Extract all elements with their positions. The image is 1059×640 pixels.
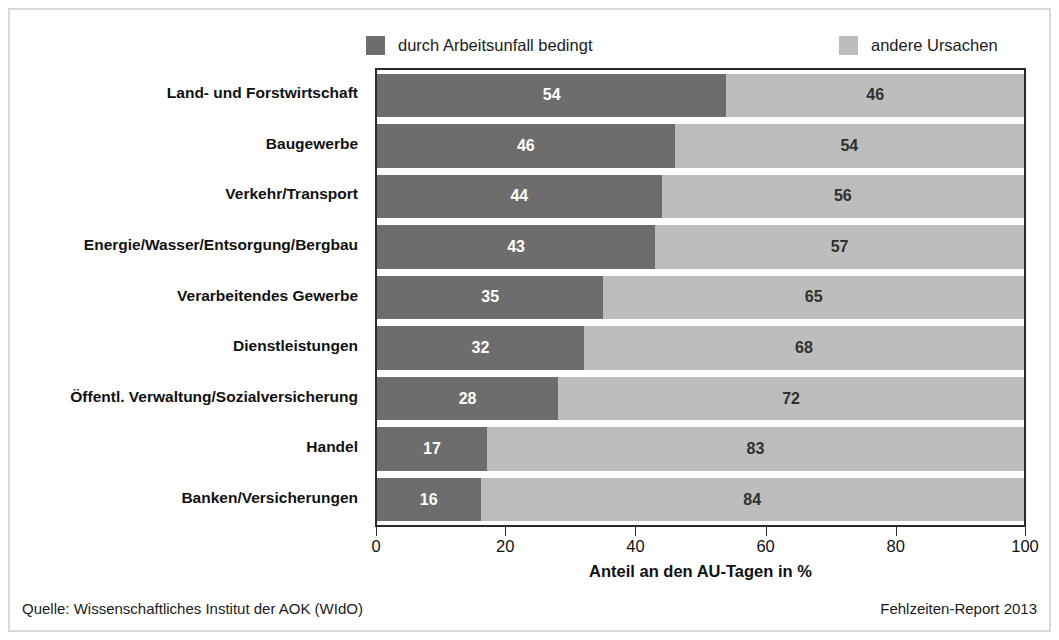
- axis-tick-label: 40: [626, 538, 644, 555]
- bar-value-label: 17: [423, 441, 441, 457]
- category-label: Energie/Wasser/Entsorgung/Bergbau: [84, 237, 358, 253]
- bar-row: 1684: [377, 478, 1024, 522]
- bar-value-label: 54: [840, 138, 858, 154]
- bar-segment-arbeitsunfall[interactable]: 54: [377, 74, 726, 118]
- bar-segment-andere-ursachen[interactable]: 57: [655, 225, 1024, 269]
- bar-value-label: 32: [472, 340, 490, 356]
- bar-value-label: 44: [510, 188, 528, 204]
- value-axis: Anteil an den AU-Tagen in % 020406080100: [375, 527, 1026, 587]
- bar-row: 5446: [377, 74, 1024, 118]
- bar-row: 4654: [377, 124, 1024, 168]
- bar-value-label: 54: [543, 87, 561, 103]
- report-note: Fehlzeiten-Report 2013: [880, 601, 1037, 616]
- legend-swatch-icon-series-1: [839, 36, 858, 55]
- axis-tick-label: 60: [756, 538, 774, 555]
- bar-value-label: 68: [795, 340, 813, 356]
- category-label: Banken/Versicherungen: [181, 490, 358, 506]
- axis-tick: [1025, 527, 1026, 536]
- bar-segment-andere-ursachen[interactable]: 84: [481, 478, 1024, 522]
- axis-tick: [376, 527, 377, 536]
- bar-segment-andere-ursachen[interactable]: 72: [558, 377, 1024, 421]
- bar-value-label: 72: [782, 391, 800, 407]
- axis-tick: [635, 527, 636, 536]
- category-label: Handel: [306, 439, 358, 455]
- bar-segment-arbeitsunfall[interactable]: 16: [377, 478, 481, 522]
- bar-value-label: 83: [747, 441, 765, 457]
- bar-segment-andere-ursachen[interactable]: 54: [675, 124, 1024, 168]
- category-label: Öffentl. Verwaltung/Sozialversicherung: [70, 389, 358, 405]
- bar-value-label: 46: [866, 87, 884, 103]
- bar-segment-arbeitsunfall[interactable]: 43: [377, 225, 655, 269]
- bar-row: 4456: [377, 175, 1024, 219]
- axis-tick-label: 80: [887, 538, 905, 555]
- bar-value-label: 65: [805, 289, 823, 305]
- bar-row: 2872: [377, 377, 1024, 421]
- bar-segment-andere-ursachen[interactable]: 65: [603, 276, 1024, 320]
- bar-value-label: 84: [743, 492, 761, 508]
- category-label: Baugewerbe: [266, 136, 358, 152]
- bar-value-label: 35: [481, 289, 499, 305]
- category-label: Dienstleistungen: [233, 338, 358, 354]
- legend-label-series-1: andere Ursachen: [871, 36, 998, 55]
- bar-segment-andere-ursachen[interactable]: 83: [487, 427, 1024, 471]
- axis-tick-label: 0: [371, 538, 380, 555]
- chart-legend: durch Arbeitsunfall bedingt andere Ursac…: [366, 30, 1026, 60]
- bar-value-label: 57: [831, 239, 849, 255]
- plot-area: 544646544456435735653268287217831684: [375, 68, 1026, 527]
- bar-segment-arbeitsunfall[interactable]: 35: [377, 276, 603, 320]
- axis-tick-label: 100: [1011, 538, 1039, 555]
- bar-value-label: 28: [459, 391, 477, 407]
- bar-value-label: 46: [517, 138, 535, 154]
- axis-tick: [505, 527, 506, 536]
- category-label: Land- und Forstwirtschaft: [167, 85, 358, 101]
- category-label: Verkehr/Transport: [225, 186, 358, 202]
- bar-segment-arbeitsunfall[interactable]: 17: [377, 427, 487, 471]
- bar-row: 1783: [377, 427, 1024, 471]
- legend-swatch-icon-series-0: [366, 36, 385, 55]
- bar-value-label: 16: [420, 492, 438, 508]
- bar-segment-arbeitsunfall[interactable]: 28: [377, 377, 558, 421]
- axis-title: Anteil an den AU-Tagen in %: [375, 562, 1026, 581]
- bar-segment-arbeitsunfall[interactable]: 32: [377, 326, 584, 370]
- legend-entry-durch-arbeitsunfall-bedingt[interactable]: durch Arbeitsunfall bedingt: [366, 30, 592, 60]
- legend-label-series-0: durch Arbeitsunfall bedingt: [398, 36, 592, 55]
- legend-entry-andere-ursachen[interactable]: andere Ursachen: [839, 30, 998, 60]
- category-label: Verarbeitendes Gewerbe: [177, 288, 358, 304]
- bar-value-label: 56: [834, 188, 852, 204]
- bar-row: 3268: [377, 326, 1024, 370]
- category-axis-labels: Land- und ForstwirtschaftBaugewerbeVerke…: [0, 68, 366, 527]
- bar-row: 4357: [377, 225, 1024, 269]
- source-note: Quelle: Wissenschaftliches Institut der …: [22, 601, 363, 616]
- axis-tick-label: 20: [496, 538, 514, 555]
- bars-container: 544646544456435735653268287217831684: [377, 70, 1024, 525]
- bar-value-label: 43: [507, 239, 525, 255]
- figure-footer: Quelle: Wissenschaftliches Institut der …: [22, 596, 1037, 620]
- axis-tick: [896, 527, 897, 536]
- bar-segment-arbeitsunfall[interactable]: 46: [377, 124, 675, 168]
- bar-segment-andere-ursachen[interactable]: 46: [726, 74, 1024, 118]
- bar-segment-andere-ursachen[interactable]: 56: [662, 175, 1024, 219]
- bar-segment-andere-ursachen[interactable]: 68: [584, 326, 1024, 370]
- bar-row: 3565: [377, 276, 1024, 320]
- bar-segment-arbeitsunfall[interactable]: 44: [377, 175, 662, 219]
- chart-figure: durch Arbeitsunfall bedingt andere Ursac…: [0, 0, 1059, 640]
- axis-tick: [766, 527, 767, 536]
